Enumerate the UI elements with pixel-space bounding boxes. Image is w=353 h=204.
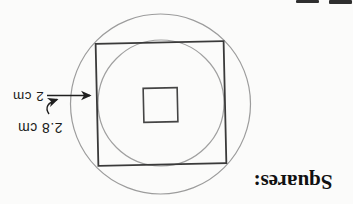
curved-arrow-icon (47, 100, 57, 115)
scanned-worksheet-page: 2 cm 2.8 cm Squares: (0, 0, 353, 204)
measurement-label-2-8cm: 2.8 cm (13, 118, 67, 138)
measurement-label-2cm: 2 cm (9, 88, 47, 104)
center-square (143, 88, 178, 123)
cropped-ink-artifact (329, 0, 352, 4)
section-heading-squares: Squares: (242, 168, 344, 196)
inscribed-circle (98, 40, 224, 166)
cropped-ink-artifact (296, 0, 319, 3)
